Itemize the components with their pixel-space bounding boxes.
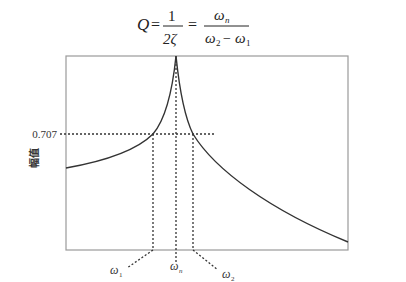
svg-text:ω: ω xyxy=(170,259,178,273)
svg-text:幅值: 幅值 xyxy=(28,148,40,168)
omega1-leader xyxy=(127,250,153,268)
svg-text:2: 2 xyxy=(231,275,235,282)
omega1-label: ω 1 xyxy=(110,263,123,279)
formula-den-sub2: 2 xyxy=(216,38,221,48)
formula-eq2: = xyxy=(188,16,197,33)
formula-eq1: = xyxy=(151,16,160,33)
formula-den-omega2: ω xyxy=(205,30,216,46)
resonance-diagram: Q = 1 2ζ = ω n ω 2 − ω 1 0.707 幅值 ω 1 ω … xyxy=(0,0,406,282)
omegan-label: ω n xyxy=(170,259,183,275)
formula-num-omega: ω xyxy=(214,7,225,23)
formula-den-minus: − xyxy=(223,31,231,46)
y-axis-label: 幅值 xyxy=(28,148,40,168)
formula-den-omega1: ω xyxy=(235,30,246,46)
svg-text:ω: ω xyxy=(222,267,230,281)
resonance-curve xyxy=(66,56,348,242)
omega2-label: ω 2 xyxy=(222,267,235,282)
svg-text:ω: ω xyxy=(110,263,118,277)
formula-num-sub: n xyxy=(225,15,230,25)
y-tick-0707: 0.707 xyxy=(32,128,57,140)
formula-den-sub1: 1 xyxy=(246,38,251,48)
formula-frac1-num: 1 xyxy=(168,8,176,24)
svg-text:n: n xyxy=(179,267,183,275)
formula-frac1-den: 2ζ xyxy=(163,31,178,47)
svg-text:1: 1 xyxy=(119,271,123,279)
formula-q: Q xyxy=(137,15,149,34)
q-factor-formula: Q = 1 2ζ = ω n ω 2 − ω 1 xyxy=(137,7,251,48)
omega2-leader xyxy=(193,250,218,270)
